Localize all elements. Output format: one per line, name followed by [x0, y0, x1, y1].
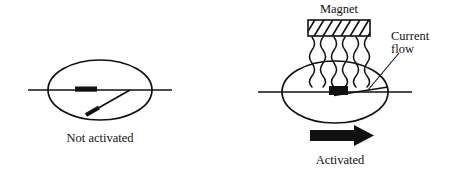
caption-activated: Activated: [316, 153, 365, 167]
caption-not-activated: Not activated: [67, 131, 135, 145]
current-flow-label-line1: Current: [391, 29, 430, 43]
fixed-contact-pad-open: [75, 87, 97, 92]
magnet-label: Magnet: [320, 2, 359, 16]
current-flow-label-line2: flow: [391, 42, 414, 56]
reed-switch-diagram: Not activated Magnet: [0, 0, 450, 179]
magnet-block-icon: [304, 18, 379, 38]
diagram-canvas: Not activated Magnet: [0, 0, 450, 179]
